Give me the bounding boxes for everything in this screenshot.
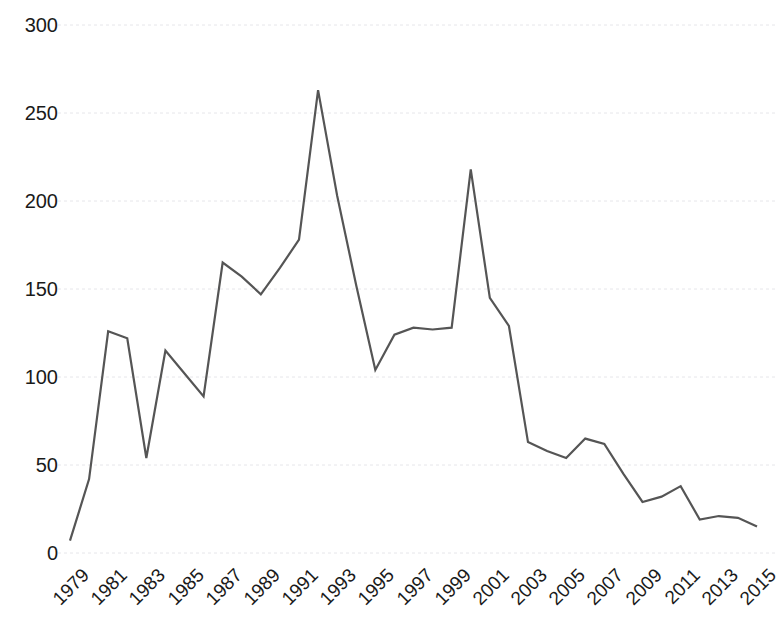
x-axis: 1979198119831985198719891991199319951997… xyxy=(0,0,777,624)
line-chart: 050100150200250300 197919811983198519871… xyxy=(0,0,777,624)
